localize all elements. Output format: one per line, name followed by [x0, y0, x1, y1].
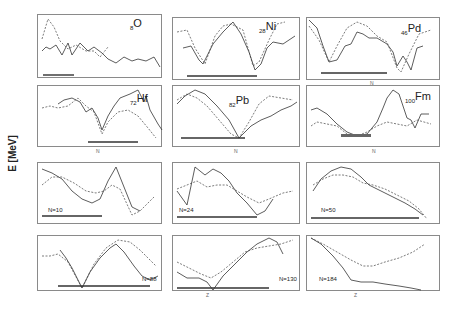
neutron-number-label: N=184 [319, 276, 337, 282]
panel-28Ni: 28Ni [172, 17, 300, 80]
x-axis-name: N [234, 148, 238, 154]
plot-N130 [173, 236, 301, 292]
plot-8O [38, 15, 163, 79]
y-axis-label: E [MeV] [7, 135, 18, 172]
plot-N88 [38, 236, 163, 292]
nucleus-label: 100Fm [405, 90, 431, 104]
neutron-number-label: N=50 [321, 207, 336, 213]
panel-46Pd: 46Pd [306, 17, 440, 80]
panel-82Pb: 82Pb [172, 85, 300, 147]
nucleus-label: 8O [130, 17, 142, 31]
neutron-number-label: N=88 [142, 276, 157, 282]
plot-N50 [307, 163, 441, 225]
nucleus-label: 82Pb [229, 94, 249, 108]
nucleus-label: 46Pd [401, 22, 421, 36]
x-axis-name: N [370, 80, 374, 86]
x-axis-name: N [372, 148, 376, 154]
panel-N88: N=88 [37, 235, 162, 291]
plot-N10 [38, 163, 163, 225]
panel-N50: N=50 [306, 162, 440, 224]
panel-N10: N=10 [37, 162, 162, 224]
x-axis-name: N [96, 148, 100, 154]
x-axis-name: Z [354, 292, 357, 298]
plot-N24 [173, 163, 301, 225]
neutron-number-label: N=130 [279, 276, 297, 282]
panel-N130: N=130 [172, 235, 300, 291]
panel-100Fm: 100Fm [306, 85, 440, 147]
nucleus-label: 28Ni [259, 20, 276, 34]
panel-8O: 8O [37, 14, 162, 78]
nucleus-label: 72Hf [130, 92, 148, 106]
panel-N24: N=24 [172, 162, 300, 224]
panel-72Hf: 72Hf [37, 85, 162, 147]
panel-N184: N=184 [306, 235, 440, 291]
neutron-number-label: N=24 [179, 207, 194, 213]
x-axis-name: Z [206, 292, 209, 298]
plot-N184 [307, 236, 441, 292]
plot-28Ni [173, 18, 301, 81]
neutron-number-label: N=10 [48, 207, 63, 213]
